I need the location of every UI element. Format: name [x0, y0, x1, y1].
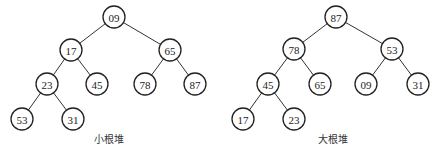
tree-edge — [152, 59, 164, 75]
tree-node: 78 — [134, 73, 156, 95]
node-label: 31 — [413, 79, 424, 91]
tree-edge — [275, 58, 288, 75]
tree-edge — [346, 22, 383, 43]
tree-node: 09 — [103, 6, 125, 28]
tree-node: 17 — [60, 39, 82, 61]
node-label: 23 — [289, 114, 301, 126]
tree-node: 53 — [11, 108, 33, 130]
min-heap-tree: 091765234578875331小根堆 — [11, 6, 206, 145]
tree-edge — [78, 59, 91, 76]
node-label: 65 — [315, 79, 327, 91]
node-label: 17 — [66, 45, 78, 57]
min-heap-caption: 小根堆 — [94, 133, 124, 145]
tree-edge — [177, 59, 189, 75]
max-heap-tree: 877853456509311723大根堆 — [232, 6, 429, 145]
node-label: 23 — [42, 79, 54, 91]
max-heap-caption: 大根堆 — [318, 133, 348, 145]
node-label: 09 — [361, 79, 373, 91]
tree-node: 31 — [407, 73, 429, 95]
tree-node: 45 — [257, 73, 279, 95]
tree-edge — [80, 24, 106, 44]
tree-node: 23 — [283, 108, 305, 130]
tree-node: 17 — [232, 108, 254, 130]
tree-node: 65 — [309, 73, 331, 95]
tree-node: 31 — [62, 108, 84, 130]
node-label: 45 — [263, 79, 275, 91]
heap-diagram: 091765234578875331小根堆877853456509311723大… — [0, 0, 436, 152]
node-label: 53 — [387, 44, 399, 56]
node-label: 31 — [68, 114, 79, 126]
tree-edge — [303, 24, 328, 43]
node-label: 78 — [289, 44, 301, 56]
tree-node: 78 — [283, 38, 305, 60]
tree-edge — [249, 93, 261, 110]
tree-node: 45 — [86, 73, 108, 95]
node-label: 45 — [92, 79, 104, 91]
node-label: 87 — [190, 79, 202, 91]
tree-node: 87 — [184, 73, 206, 95]
tree-edge — [53, 59, 64, 75]
tree-node: 65 — [159, 39, 181, 61]
tree-node: 23 — [36, 73, 58, 95]
node-label: 53 — [17, 114, 29, 126]
tree-edge — [373, 58, 386, 75]
tree-edge — [275, 93, 288, 110]
tree-node: 87 — [325, 6, 347, 28]
node-label: 87 — [331, 12, 343, 24]
tree-node: 09 — [355, 73, 377, 95]
tree-edge — [123, 23, 160, 45]
node-label: 65 — [165, 45, 177, 57]
tree-edge — [399, 58, 412, 75]
tree-edge — [301, 58, 314, 75]
tree-edge — [54, 93, 67, 110]
tree-edge — [28, 93, 40, 110]
tree-node: 53 — [381, 38, 403, 60]
node-label: 78 — [140, 79, 152, 91]
node-label: 17 — [238, 114, 250, 126]
node-label: 09 — [109, 12, 121, 24]
